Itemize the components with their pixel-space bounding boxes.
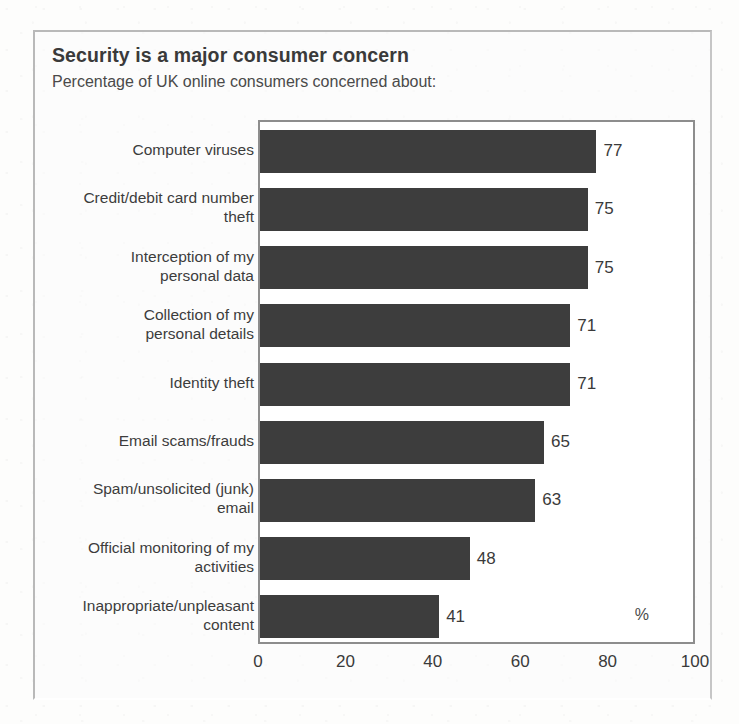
- bar-value-label: 71: [577, 316, 596, 336]
- category-label-line: Inappropriate/unpleasant: [38, 596, 254, 615]
- category-label-line: email: [38, 498, 254, 517]
- category-label: Spam/unsolicited (junk)email: [38, 479, 254, 517]
- x-tick-label: 0: [253, 652, 262, 672]
- chart-subtitle: Percentage of UK online consumers concer…: [52, 73, 436, 91]
- bar-row: 41: [260, 595, 693, 638]
- bar: [260, 246, 588, 289]
- x-axis-tick-labels: 020406080100: [258, 644, 695, 684]
- category-label: Official monitoring of myactivities: [38, 538, 254, 576]
- category-label-line: personal details: [38, 324, 254, 343]
- category-label-line: Credit/debit card number: [38, 188, 254, 207]
- bar-value-label: 63: [542, 490, 561, 510]
- x-tick-label: 60: [511, 652, 530, 672]
- x-tick-label: 100: [681, 652, 709, 672]
- bar: [260, 421, 544, 464]
- category-label: Computer viruses: [38, 140, 254, 159]
- bar-value-label: 77: [603, 141, 622, 161]
- bar-row: 75: [260, 188, 693, 231]
- bar: [260, 595, 439, 638]
- x-tick-label: 80: [598, 652, 617, 672]
- bar-row: 63: [260, 479, 693, 522]
- category-label: Credit/debit card numbertheft: [38, 188, 254, 226]
- chart-figure: Security is a major consumer concern Per…: [33, 30, 712, 700]
- bar: [260, 479, 535, 522]
- bar-row: 77: [260, 130, 693, 173]
- percent-unit-label: %: [635, 606, 649, 624]
- category-label-line: personal data: [38, 266, 254, 285]
- bar: [260, 304, 570, 347]
- bar: [260, 188, 588, 231]
- bar-value-label: 65: [551, 432, 570, 452]
- category-label-line: Spam/unsolicited (junk): [38, 479, 254, 498]
- category-label: Interception of mypersonal data: [38, 247, 254, 285]
- bar: [260, 363, 570, 406]
- category-label-line: Collection of my: [38, 305, 254, 324]
- bar-value-label: 75: [595, 199, 614, 219]
- category-label-line: Computer viruses: [38, 140, 254, 159]
- bar-row: 71: [260, 304, 693, 347]
- bar-row: 65: [260, 421, 693, 464]
- category-label-line: activities: [38, 557, 254, 576]
- category-label: Email scams/frauds: [38, 431, 254, 450]
- category-label-line: theft: [38, 207, 254, 226]
- bar-row: 75: [260, 246, 693, 289]
- chart-title: Security is a major consumer concern: [52, 44, 409, 67]
- bar-value-label: 41: [446, 607, 465, 627]
- category-label-line: Email scams/frauds: [38, 431, 254, 450]
- x-tick-label: 40: [423, 652, 442, 672]
- plot-area: 777575717165634841 %: [258, 120, 695, 644]
- category-label: Collection of mypersonal details: [38, 305, 254, 343]
- bar: [260, 130, 596, 173]
- bar-row: 48: [260, 537, 693, 580]
- bar-row: 71: [260, 363, 693, 406]
- x-tick-label: 20: [336, 652, 355, 672]
- category-label-line: content: [38, 615, 254, 634]
- bar: [260, 537, 470, 580]
- category-label-line: Official monitoring of my: [38, 538, 254, 557]
- bar-value-label: 75: [595, 258, 614, 278]
- category-label-line: Interception of my: [38, 247, 254, 266]
- category-label-line: Identity theft: [38, 373, 254, 392]
- bar-series: 777575717165634841: [260, 122, 693, 642]
- bar-value-label: 48: [477, 549, 496, 569]
- category-label: Inappropriate/unpleasantcontent: [38, 596, 254, 634]
- category-axis-labels: Computer virusesCredit/debit card number…: [35, 120, 254, 644]
- bar-value-label: 71: [577, 374, 596, 394]
- category-label: Identity theft: [38, 373, 254, 392]
